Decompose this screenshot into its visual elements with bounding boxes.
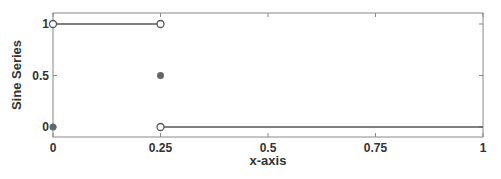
- x-tick-label: 0.75: [364, 141, 388, 155]
- filled-marker: [157, 72, 164, 79]
- open-marker: [157, 21, 164, 28]
- filled-marker: [50, 124, 57, 131]
- x-axis-label: x-axis: [250, 153, 287, 168]
- x-tick-label: 0.25: [149, 141, 173, 155]
- x-tick-label: 1: [480, 141, 487, 155]
- chart: 00.250.50.75100.51 x-axis Sine Series: [0, 0, 501, 179]
- y-tick-label: 1: [42, 17, 49, 31]
- y-tick-label: 0.5: [32, 69, 49, 83]
- x-tick-label: 0: [50, 141, 57, 155]
- y-axis-label: Sine Series: [9, 40, 24, 110]
- y-tick-label: 0: [42, 120, 49, 134]
- axes-box: [53, 13, 483, 137]
- plot-area: 00.250.50.75100.51: [32, 13, 486, 155]
- open-marker: [157, 124, 164, 131]
- open-marker: [50, 21, 57, 28]
